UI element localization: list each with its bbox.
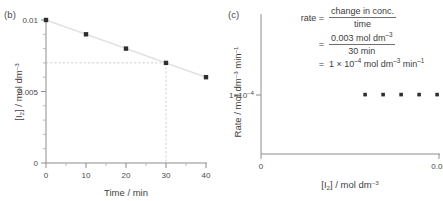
panel-b-ytick-label-top: 0.01 (22, 16, 38, 25)
data-point (417, 93, 421, 97)
panel-b-concentration-vs-time: (b) (0, 0, 225, 201)
panel-b-x-axis-title: Time / min (104, 187, 148, 198)
data-point (124, 46, 128, 50)
panel-b-x-major-ticks (46, 163, 206, 168)
panel-b-data-points (44, 18, 208, 80)
equation-2-denominator: 30 min (329, 45, 395, 56)
equation-1-lhs: rate = (290, 13, 329, 23)
equation-1-numerator: change in conc. (329, 6, 396, 18)
panel-c-y-axis-title: Rate / mol dm–3 min–1 (232, 46, 243, 137)
data-point (435, 93, 439, 97)
equation-3-part3: min (400, 59, 417, 69)
equation-2-numerator-base: 0.003 mol dm (331, 33, 386, 43)
equation-row-3: = 1 × 10–4 mol dm–3 min–1 (290, 59, 424, 69)
data-point (44, 18, 48, 22)
data-point (204, 75, 208, 79)
equation-2-fraction: 0.003 mol dm–3 30 min (329, 33, 395, 57)
data-point (381, 93, 385, 97)
panel-b-xtick-label-20: 20 (122, 171, 131, 180)
panel-b-y-major-ticks (41, 20, 46, 163)
equation-2-lhs: = (290, 39, 329, 49)
panel-b-construction-lines (46, 63, 166, 163)
equation-3-part2: mol dm (361, 59, 393, 69)
rate-calculation-block: rate = change in conc. time = 0.003 mol … (290, 6, 424, 73)
panel-b-xtick-label-10: 10 (82, 171, 91, 180)
equation-row-2: = 0.003 mol dm–3 30 min (290, 33, 424, 57)
equation-1-denominator: time (329, 18, 396, 29)
data-point (164, 61, 168, 65)
panel-b-xtick-label-0: 0 (44, 171, 49, 180)
data-point (399, 93, 403, 97)
equation-3-part1: 1 × 10 (329, 59, 354, 69)
equation-2-numerator-exponent: –3 (386, 31, 393, 38)
figure-container: (b) (0, 0, 443, 201)
equation-1-fraction: change in conc. time (329, 6, 396, 30)
equation-3-exponent3: –1 (417, 57, 424, 64)
panel-b-y-axis-title: [I2] / mol dm–3 (13, 63, 25, 121)
panel-c-data-points (363, 93, 439, 97)
equation-3-result: 1 × 10–4 mol dm–3 min–1 (329, 59, 424, 69)
data-point (363, 93, 367, 97)
panel-c-x-axis-title: [I2] / mol dm–3 (321, 179, 379, 191)
panel-b-chart-svg: 0.01 0.005 0 0 10 20 30 40 Time / min [I… (0, 0, 225, 201)
data-point (84, 32, 88, 36)
panel-c-rate-vs-concentration: (c) 1×10–4 0 0.01 (225, 0, 443, 201)
panel-b-ytick-label-zero: 0 (34, 159, 39, 168)
equation-2-numerator: 0.003 mol dm–3 (329, 33, 395, 45)
equation-row-1: rate = change in conc. time (290, 6, 424, 30)
equation-3-lhs: = (290, 59, 329, 69)
panel-c-xtick-label-0: 0 (259, 162, 264, 171)
panel-b-xtick-label-30: 30 (162, 171, 171, 180)
panel-b-xtick-label-40: 40 (202, 171, 211, 180)
panel-c-xtick-label-max: 0.01 (431, 162, 443, 171)
